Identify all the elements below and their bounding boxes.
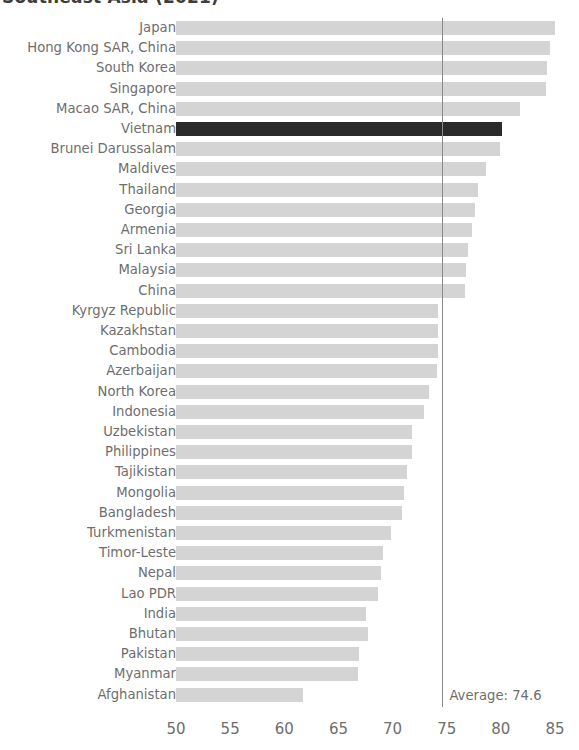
bar bbox=[176, 627, 368, 641]
bar bbox=[176, 445, 412, 459]
x-axis-tick-label: 55 bbox=[221, 720, 240, 738]
bar-category-label: Maldives bbox=[118, 163, 176, 176]
bar bbox=[176, 385, 429, 399]
bar-category-label: Thailand bbox=[119, 183, 176, 196]
bar bbox=[176, 324, 438, 338]
bar bbox=[176, 425, 412, 439]
bar-row: Myanmar bbox=[0, 664, 579, 684]
bar-row: Azerbaijan bbox=[0, 361, 579, 381]
bar-category-label: Afghanistan bbox=[97, 688, 176, 701]
bar-row: North Korea bbox=[0, 382, 579, 402]
average-reference-line bbox=[442, 18, 443, 707]
bar bbox=[176, 486, 404, 500]
bar-category-label: Singapore bbox=[109, 82, 176, 95]
bar-category-label: Bangladesh bbox=[99, 506, 176, 519]
bar bbox=[176, 183, 478, 197]
bar-row: China bbox=[0, 281, 579, 301]
bar-highlighted bbox=[176, 122, 502, 136]
bar bbox=[176, 688, 303, 702]
bar bbox=[176, 243, 468, 257]
bar-category-label: Vietnam bbox=[121, 122, 176, 135]
bar-category-label: Hong Kong SAR, China bbox=[27, 42, 176, 55]
bar-row: Vietnam bbox=[0, 119, 579, 139]
bar-category-label: Georgia bbox=[124, 203, 176, 216]
bar-category-label: Lao PDR bbox=[121, 587, 176, 600]
bar-row: Lao PDR bbox=[0, 584, 579, 604]
bar-category-label: Kyrgyz Republic bbox=[72, 304, 176, 317]
bar bbox=[176, 142, 500, 156]
chart-page: Southeast Asia (2021) JapanHong Kong SAR… bbox=[0, 0, 579, 750]
bar-row: Kazakhstan bbox=[0, 321, 579, 341]
bar-row: Turkmenistan bbox=[0, 523, 579, 543]
bar bbox=[176, 344, 438, 358]
bar bbox=[176, 546, 383, 560]
x-axis-tick-label: 50 bbox=[166, 720, 185, 738]
bar-chart-plot-area: JapanHong Kong SAR, ChinaSouth KoreaSing… bbox=[0, 0, 579, 750]
bar-category-label: Indonesia bbox=[112, 405, 176, 418]
bar bbox=[176, 587, 378, 601]
bar bbox=[176, 223, 472, 237]
x-axis-tick-label: 85 bbox=[545, 720, 564, 738]
bar-category-label: Pakistan bbox=[121, 648, 176, 661]
bar bbox=[176, 405, 424, 419]
bar bbox=[176, 364, 437, 378]
bar-category-label: Kazakhstan bbox=[100, 324, 176, 337]
bar-row: Pakistan bbox=[0, 644, 579, 664]
bar-row: Hong Kong SAR, China bbox=[0, 38, 579, 58]
bar-category-label: Malaysia bbox=[118, 264, 176, 277]
bar-row: Uzbekistan bbox=[0, 422, 579, 442]
bar-row: Tajikistan bbox=[0, 462, 579, 482]
bar-row: Georgia bbox=[0, 200, 579, 220]
bar bbox=[176, 304, 438, 318]
bar-row: Kyrgyz Republic bbox=[0, 301, 579, 321]
bar-category-label: Macao SAR, China bbox=[56, 102, 176, 115]
bar-row: Cambodia bbox=[0, 341, 579, 361]
bar-category-label: Uzbekistan bbox=[103, 425, 176, 438]
bar-category-label: Mongolia bbox=[116, 486, 176, 499]
bar bbox=[176, 61, 547, 75]
bar-row: Mongolia bbox=[0, 483, 579, 503]
bar bbox=[176, 566, 381, 580]
bar bbox=[176, 506, 402, 520]
bar-category-label: North Korea bbox=[98, 385, 176, 398]
bar-row: Bangladesh bbox=[0, 503, 579, 523]
bar-row: Brunei Darussalam bbox=[0, 139, 579, 159]
bar bbox=[176, 526, 391, 540]
x-axis-tick-label: 65 bbox=[329, 720, 348, 738]
bar bbox=[176, 647, 359, 661]
bar bbox=[176, 41, 550, 55]
bar bbox=[176, 102, 520, 116]
bar-row: Timor-Leste bbox=[0, 543, 579, 563]
bar-category-label: Turkmenistan bbox=[87, 526, 176, 539]
bar-category-label: Philippines bbox=[105, 446, 176, 459]
bar bbox=[176, 263, 466, 277]
bar bbox=[176, 465, 407, 479]
bar-category-label: India bbox=[144, 607, 176, 620]
bar-category-label: China bbox=[138, 284, 176, 297]
bar-row: Maldives bbox=[0, 159, 579, 179]
average-annotation-label: Average: 74.6 bbox=[449, 688, 541, 703]
bar-row: Philippines bbox=[0, 442, 579, 462]
bar-category-label: Brunei Darussalam bbox=[50, 143, 176, 156]
bar-category-label: Sri Lanka bbox=[115, 244, 176, 257]
x-axis: 5055606570758085 bbox=[0, 714, 579, 750]
bar bbox=[176, 21, 555, 35]
bar bbox=[176, 162, 486, 176]
bar-row: Armenia bbox=[0, 220, 579, 240]
bar bbox=[176, 203, 475, 217]
bar-row: South Korea bbox=[0, 58, 579, 78]
bar-category-label: Nepal bbox=[138, 567, 176, 580]
bar bbox=[176, 284, 465, 298]
bar-row: Sri Lanka bbox=[0, 240, 579, 260]
bar bbox=[176, 667, 358, 681]
bar-category-label: Timor-Leste bbox=[99, 547, 176, 560]
bar-row: India bbox=[0, 604, 579, 624]
bar-category-label: South Korea bbox=[96, 62, 176, 75]
x-axis-tick-label: 70 bbox=[383, 720, 402, 738]
bar-row: Singapore bbox=[0, 79, 579, 99]
bar-row: Bhutan bbox=[0, 624, 579, 644]
bar-category-label: Tajikistan bbox=[115, 466, 176, 479]
bar-row: Nepal bbox=[0, 563, 579, 583]
bar-category-label: Japan bbox=[139, 21, 176, 34]
bar bbox=[176, 82, 546, 96]
